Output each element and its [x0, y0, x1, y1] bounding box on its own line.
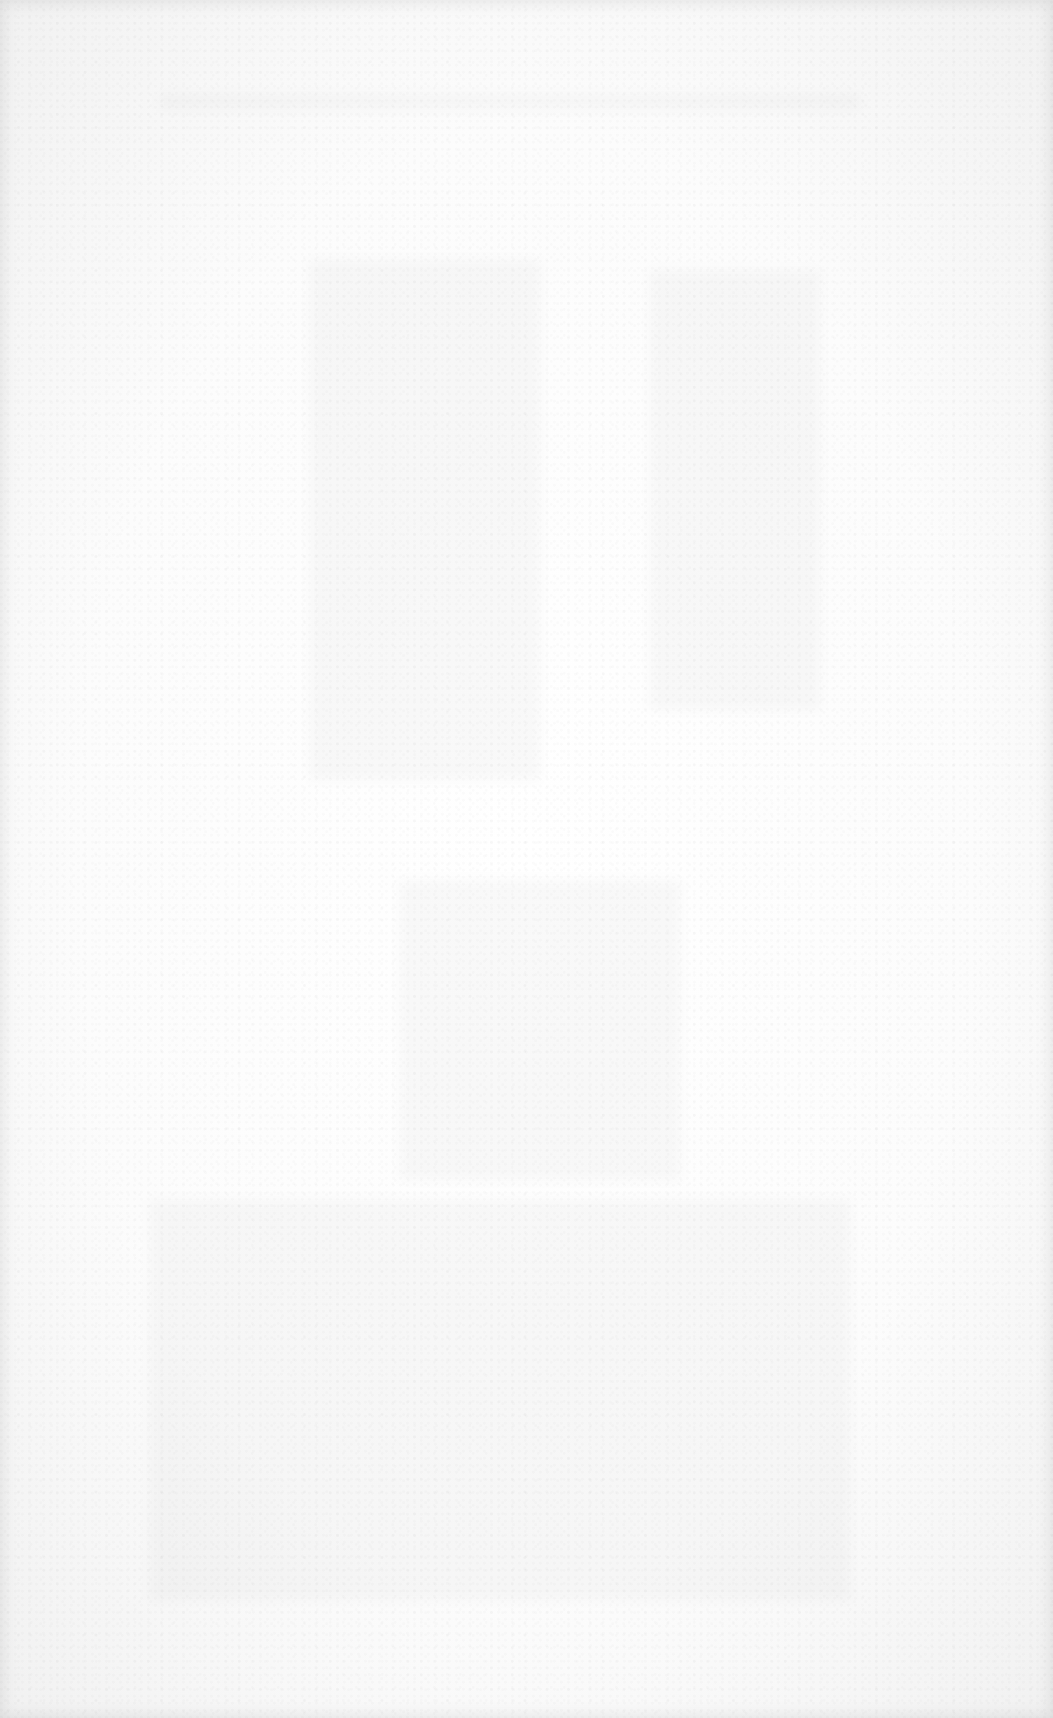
bleed-through-mark [150, 1200, 850, 1600]
blank-scanned-page [0, 0, 1053, 1718]
bleed-through-mark [310, 260, 540, 780]
bleed-through-mark [400, 880, 680, 1180]
bleed-through-mark [160, 95, 860, 109]
bleed-through-mark [650, 270, 820, 710]
